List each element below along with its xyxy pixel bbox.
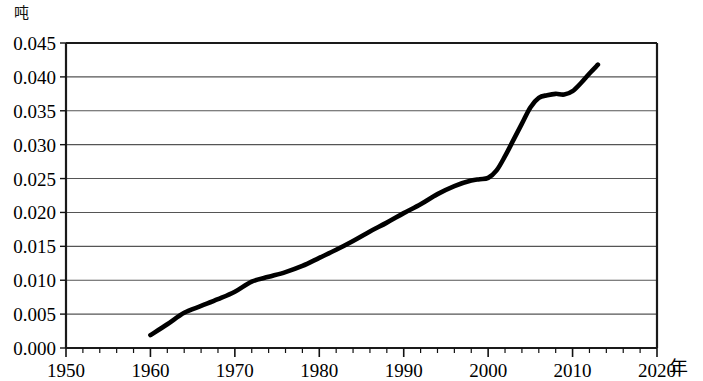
x-tick-label: 2010 bbox=[554, 360, 592, 381]
line-chart: 吨 0.0000.0050.0100.0150.0200.0250.0300.0… bbox=[0, 0, 703, 381]
y-axis-ticks: 0.0000.0050.0100.0150.0200.0250.0300.035… bbox=[13, 33, 66, 359]
x-tick-label: 1950 bbox=[47, 360, 85, 381]
y-tick-label: 0.000 bbox=[13, 338, 56, 359]
series-line bbox=[150, 65, 597, 335]
x-tick-label: 2000 bbox=[469, 360, 507, 381]
x-tick-label: 1970 bbox=[216, 360, 254, 381]
gridlines bbox=[66, 77, 657, 314]
x-tick-label: 1980 bbox=[300, 360, 338, 381]
x-tick-label: 1990 bbox=[385, 360, 423, 381]
y-tick-label: 0.025 bbox=[13, 169, 56, 190]
y-tick-label: 0.010 bbox=[13, 270, 56, 291]
y-tick-label: 0.040 bbox=[13, 67, 56, 88]
y-tick-label: 0.005 bbox=[13, 304, 56, 325]
y-tick-label: 0.045 bbox=[13, 33, 56, 54]
y-tick-label: 0.020 bbox=[13, 202, 56, 223]
plot-frame bbox=[66, 43, 657, 348]
y-tick-label: 0.030 bbox=[13, 135, 56, 156]
x-axis-unit-label: 年 bbox=[669, 358, 688, 379]
x-axis-ticks: 19501960197019801990200020102020 bbox=[47, 348, 676, 381]
y-tick-label: 0.015 bbox=[13, 236, 56, 257]
chart-container: 吨 0.0000.0050.0100.0150.0200.0250.0300.0… bbox=[0, 0, 703, 381]
x-tick-label: 1960 bbox=[131, 360, 169, 381]
y-axis-unit-label: 吨 bbox=[14, 4, 29, 22]
data-series-group bbox=[150, 65, 597, 335]
y-tick-label: 0.035 bbox=[13, 101, 56, 122]
